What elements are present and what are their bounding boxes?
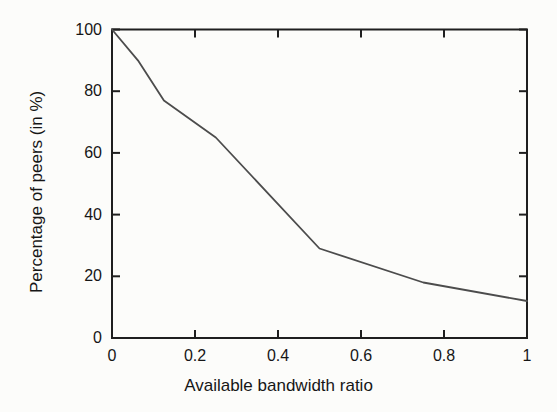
x-tick-label: 0.4	[256, 347, 300, 365]
plot-border	[112, 30, 527, 339]
x-axis-title: Available bandwidth ratio	[0, 376, 557, 396]
x-tick-label: 0.2	[173, 347, 217, 365]
y-tick-label: 20	[56, 267, 102, 285]
x-tick-label: 0.6	[339, 347, 383, 365]
y-axis-title: Percentage of peers (in %)	[27, 91, 47, 293]
x-tick-label: 0.8	[422, 347, 466, 365]
y-tick-label: 0	[56, 329, 102, 347]
x-tick-label: 0	[90, 347, 134, 365]
y-tick-label: 40	[56, 206, 102, 224]
data-line-percentage-of-peers	[112, 30, 527, 302]
y-tick-label: 60	[56, 144, 102, 162]
y-tick-label: 80	[56, 82, 102, 100]
x-tick-label: 1	[505, 347, 549, 365]
y-tick-label: 100	[56, 21, 102, 39]
chart-figure: Available bandwidth ratio Percentage of …	[0, 0, 557, 412]
